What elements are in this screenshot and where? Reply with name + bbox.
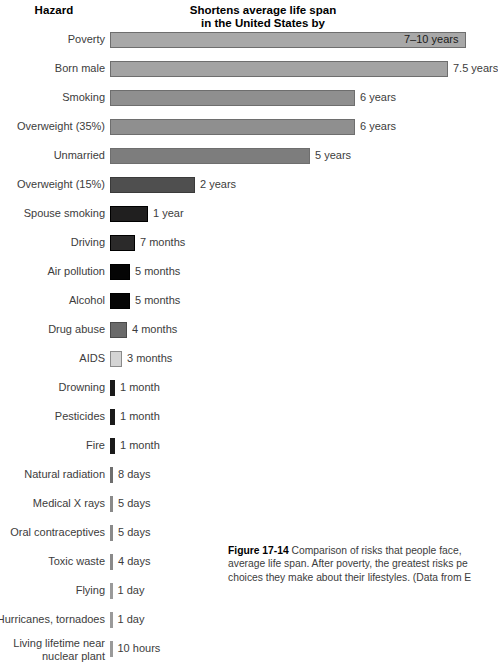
bar-category-label: Spouse smoking	[0, 205, 105, 222]
bar-value-label: 10 hours	[118, 640, 161, 657]
bar-row: AIDS3 months	[0, 350, 473, 379]
bar	[110, 235, 135, 251]
column-header-hazard: Hazard	[0, 4, 108, 16]
bar-value-label: 5 months	[135, 263, 180, 280]
bar-value-label: 4 months	[132, 321, 177, 338]
bar-category-label: Drug abuse	[0, 321, 105, 338]
bar-category-label: Overweight (35%)	[0, 118, 105, 135]
bar-category-label: Natural radiation	[0, 466, 105, 483]
bar-value-label: 1 month	[120, 437, 160, 454]
bar-value-label: 1 day	[118, 611, 145, 628]
bar	[110, 409, 115, 425]
bar-category-label: Air pollution	[0, 263, 105, 280]
bar-value-label: 1 month	[120, 408, 160, 425]
bar-category-label: Driving	[0, 234, 105, 251]
bar-row: Born male7.5 years	[0, 60, 473, 89]
bar	[110, 264, 130, 280]
bar-row: Fire1 month	[0, 437, 473, 466]
bar-category-label: Alcohol	[0, 292, 105, 309]
bar-category-label: Poverty	[0, 31, 105, 48]
bar-value-label: 8 days	[118, 466, 150, 483]
bar-value-label: 5 years	[315, 147, 351, 164]
bar	[110, 322, 127, 338]
bar	[110, 496, 113, 512]
column-header-lifespan-line1: Shortens average life span	[190, 4, 336, 16]
figure-number: Figure 17-14	[228, 545, 289, 556]
bar-category-label: AIDS	[0, 350, 105, 367]
bar-row: Medical X rays5 days	[0, 495, 473, 524]
bar-value-label: 5 months	[135, 292, 180, 309]
bar-row: Unmarried5 years	[0, 147, 473, 176]
bar-value-label: 7.5 years	[453, 60, 498, 77]
bar-row: Overweight (15%)2 years	[0, 176, 473, 205]
bar-category-label: Overweight (15%)	[0, 176, 105, 193]
bar-row: Flying1 day	[0, 582, 473, 611]
bar	[110, 380, 115, 396]
bar	[110, 641, 113, 657]
bar	[110, 525, 113, 541]
bar-value-label: 1 month	[120, 379, 160, 396]
bar-category-label: Medical X rays	[0, 495, 105, 512]
bar-value-label: 5 days	[118, 524, 150, 541]
bar-value-label: 6 years	[360, 89, 396, 106]
bar-category-label: Born male	[0, 60, 105, 77]
bar	[110, 90, 355, 106]
bar-value-label: 4 days	[118, 553, 150, 570]
bar-value-label: 7 months	[140, 234, 185, 251]
figure-caption: Figure 17-14 Comparison of risks that pe…	[228, 544, 490, 584]
bar-row: Spouse smoking1 year	[0, 205, 473, 234]
bar-category-label: Smoking	[0, 89, 105, 106]
bar-value-label: 1 year	[153, 205, 184, 222]
bar-value-label: 7–10 years	[404, 31, 458, 48]
bar-category-label: Toxic waste	[0, 553, 105, 570]
bar-value-label: 6 years	[360, 118, 396, 135]
bar-row: Natural radiation8 days	[0, 466, 473, 495]
bar	[110, 177, 195, 193]
bar	[110, 554, 113, 570]
bar-value-label: 2 years	[200, 176, 236, 193]
bar-row: Alcohol5 months	[0, 292, 473, 321]
column-header-lifespan-line2: in the United States by	[108, 17, 418, 30]
bar-row: Drowning1 month	[0, 379, 473, 408]
bar-row: Smoking6 years	[0, 89, 473, 118]
bar-value-label: 1 day	[118, 582, 145, 599]
bar-category-label: Unmarried	[0, 147, 105, 164]
column-header-lifespan: Shortens average life span in the United…	[108, 4, 418, 30]
bar	[110, 119, 355, 135]
bar-value-label: 5 days	[118, 495, 150, 512]
bar-row: Living lifetime near nuclear plant10 hou…	[0, 640, 473, 666]
bar	[110, 612, 113, 628]
bar	[110, 583, 113, 599]
bar-row: Pesticides1 month	[0, 408, 473, 437]
bar	[110, 61, 448, 77]
bar-category-label: Flying	[0, 582, 105, 599]
bar	[110, 293, 130, 309]
bar	[110, 467, 113, 483]
bar	[110, 148, 310, 164]
bar-category-label: Pesticides	[0, 408, 105, 425]
bar-category-label: Fire	[0, 437, 105, 454]
bar	[110, 438, 115, 454]
bar-row: Air pollution5 months	[0, 263, 473, 292]
bar-category-label: Oral contraceptives	[0, 524, 105, 541]
bar-category-label: Living lifetime near nuclear plant	[0, 637, 105, 662]
bar	[110, 351, 122, 367]
bar	[110, 206, 148, 222]
bar-category-label: Hurricanes, tornadoes	[0, 611, 105, 628]
bar-row: Poverty7–10 years	[0, 31, 473, 60]
bar-value-label: 3 months	[127, 350, 172, 367]
bar-row: Driving7 months	[0, 234, 473, 263]
bar-row: Drug abuse4 months	[0, 321, 473, 350]
bar-row: Hurricanes, tornadoes1 day	[0, 611, 473, 640]
bar-category-label: Drowning	[0, 379, 105, 396]
bar-row: Overweight (35%)6 years	[0, 118, 473, 147]
